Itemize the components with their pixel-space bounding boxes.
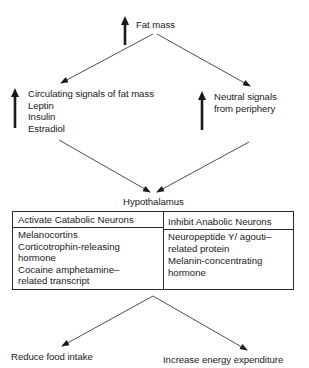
fat-mass-label: Fat mass xyxy=(136,19,175,31)
list-item: hormone xyxy=(18,252,163,264)
list-item: Cocaine amphetamine– xyxy=(18,264,163,276)
diagram-connectors xyxy=(0,0,309,368)
circulating-signals-block: Circulating signals of fat mass Leptin I… xyxy=(28,88,154,134)
arrow-to-increase-energy-expenditure xyxy=(153,296,247,350)
arrow-to-neutral-signals xyxy=(157,34,250,86)
circulating-up-arrow-icon xyxy=(11,88,19,128)
leptin-label: Leptin xyxy=(28,100,154,112)
list-item: hormone xyxy=(168,267,293,279)
neutral-up-arrow-icon xyxy=(198,91,206,130)
list-item: Melanocortins xyxy=(18,229,163,241)
hypothalamus-label: Hypothalamus xyxy=(123,196,184,208)
arrow-to-reduce-food-intake xyxy=(62,296,153,346)
arrow-to-circulating-signals xyxy=(61,34,153,83)
catabolic-header: Activate Catabolic Neurons xyxy=(13,212,163,228)
catabolic-list: Melanocortins Corticotrophin-releasing h… xyxy=(13,228,163,287)
catabolic-column: Activate Catabolic Neurons Melanocortins… xyxy=(13,212,164,289)
list-item: Corticotrophin-releasing xyxy=(18,241,163,253)
list-item: related transcript xyxy=(18,275,163,287)
list-item: related protein xyxy=(168,243,293,255)
reduce-food-intake-label: Reduce food intake xyxy=(11,351,93,363)
neutral-signals-line-2: from periphery xyxy=(214,103,277,115)
anabolic-header: Inhibit Anabolic Neurons xyxy=(163,212,293,230)
anabolic-column: Inhibit Anabolic Neurons Neuropeptide Y/… xyxy=(163,212,293,289)
list-item: Neuropeptide Y/ agouti– xyxy=(168,231,293,243)
list-item: Melanin-concentrating xyxy=(168,255,293,267)
estradiol-label: Estradiol xyxy=(28,123,154,135)
anabolic-list: Neuropeptide Y/ agouti– related protein … xyxy=(163,230,293,278)
neutral-signals-block: Neutral signals from periphery xyxy=(214,91,277,114)
neutral-signals-line-1: Neutral signals xyxy=(214,91,277,103)
increase-energy-expenditure-label: Increase energy expenditure xyxy=(163,354,283,366)
fat-mass-up-arrow-icon xyxy=(121,16,129,45)
neuron-table: Activate Catabolic Neurons Melanocortins… xyxy=(12,211,294,290)
insulin-label: Insulin xyxy=(28,111,154,123)
circulating-signals-title: Circulating signals of fat mass xyxy=(28,88,154,100)
arrow-left-to-hypothalamus xyxy=(59,140,150,192)
arrow-right-to-hypothalamus xyxy=(157,142,249,192)
